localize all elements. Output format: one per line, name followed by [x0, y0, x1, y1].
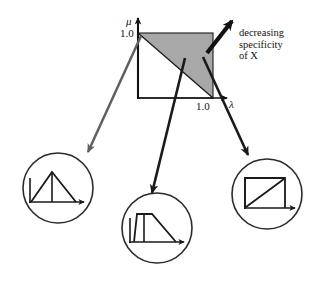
lambda-axis-label: λ	[229, 98, 234, 110]
callout-circle-right	[232, 159, 302, 229]
annotation-line-3: of X	[239, 50, 284, 62]
mini-curve-left	[31, 172, 76, 202]
membership-function-low-specificity	[232, 159, 302, 229]
callout-circle-middle	[122, 193, 192, 263]
mini-curve-middle	[134, 214, 176, 242]
decreasing-specificity-annotation: decreasing specificity of X	[239, 27, 284, 62]
callout-arrow-left	[88, 36, 141, 152]
membership-function-medium-specificity	[122, 193, 192, 263]
mu-axis-label: μ	[126, 15, 132, 27]
callout-arrow-middle	[152, 58, 185, 193]
lambda-axis-tick-1: 1.0	[196, 100, 210, 112]
membership-function-high-specificity	[23, 153, 93, 223]
callout-circle-left	[23, 153, 93, 223]
mu-axis-tick-1: 1.0	[120, 27, 134, 39]
annotation-line-2: specificity	[239, 39, 284, 51]
mini-diagonal-right	[246, 179, 284, 207]
unit-square-plot	[88, 18, 248, 193]
annotation-line-1: decreasing	[239, 27, 284, 39]
